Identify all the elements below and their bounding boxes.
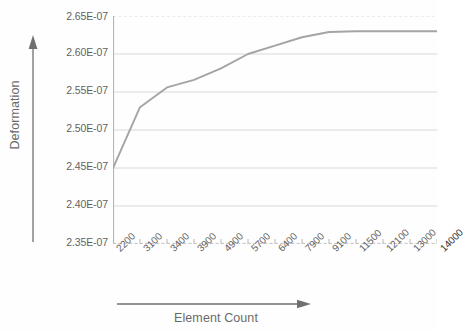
y-tick-label: 2.55E-07 [44,85,108,96]
x-axis-title: Element Count [116,311,316,325]
y-tick-label: 2.60E-07 [44,47,108,58]
y-axis-title: Deformation [8,50,22,180]
plot-svg [113,16,437,244]
plot-area [113,16,437,244]
y-axis-tick-labels: 2.65E-07 2.60E-07 2.55E-07 2.50E-07 2.45… [44,0,108,250]
y-tick-label: 2.45E-07 [44,161,108,172]
x-axis-tick-labels: 2200310034003900490057006400790091001150… [113,246,437,294]
arrow-right-icon [116,298,312,310]
x-tick-label: 14000 [438,227,465,254]
gridlines [113,16,437,244]
y-tick-label: 2.40E-07 [44,199,108,210]
y-tick-label: 2.65E-07 [44,11,108,22]
arrow-up-icon [26,34,40,244]
y-axis-group: Deformation [2,30,36,245]
y-tick-label: 2.35E-07 [44,237,108,248]
y-tick-label: 2.50E-07 [44,123,108,134]
deformation-series-line [113,31,437,168]
